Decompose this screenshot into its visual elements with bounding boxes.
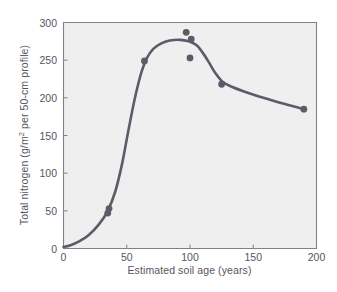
data-point-marker <box>218 81 225 88</box>
data-point-marker <box>141 58 148 65</box>
data-point-marker <box>183 29 190 36</box>
data-point-marker <box>187 55 194 62</box>
plot-canvas <box>0 0 337 292</box>
data-point-marker <box>300 106 307 113</box>
chart-figure: Total nitrogen (g/m2 per 50-cm profile) … <box>0 0 337 292</box>
data-point-marker <box>188 36 195 43</box>
data-point-marker <box>106 205 113 212</box>
